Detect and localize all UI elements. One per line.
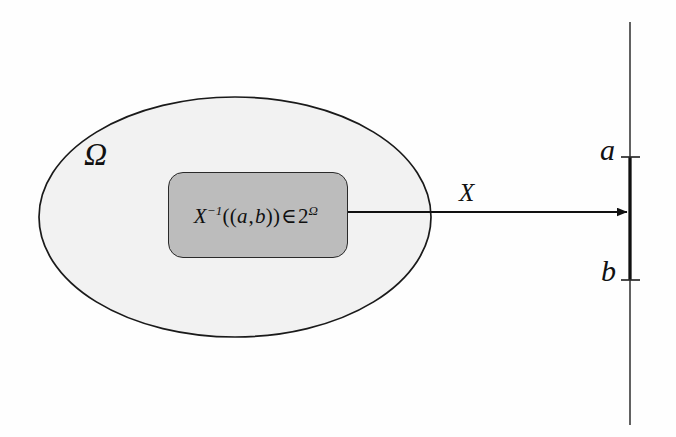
formula-open-parens: ((	[223, 204, 237, 228]
preimage-box: X−1((a,b))∈2Ω	[168, 172, 348, 258]
tick-label-b: b	[601, 256, 616, 286]
formula-variable: X	[194, 204, 207, 228]
formula-powerset-exponent: Ω	[309, 203, 319, 218]
formula-membership-symbol: ∈	[280, 204, 298, 228]
omega-label: Ω	[84, 138, 107, 170]
mapping-arrow-label: X	[459, 180, 474, 205]
formula-lower-bound: a	[237, 204, 248, 228]
formula-powerset-base: 2	[298, 204, 309, 228]
formula-upper-bound: b	[255, 204, 266, 228]
formula-inverse-exponent: −1	[207, 203, 223, 218]
tick-label-a: a	[600, 135, 615, 165]
formula-close-parens: ))	[266, 204, 280, 228]
preimage-formula: X−1((a,b))∈2Ω	[194, 204, 318, 229]
figure-canvas: Ω X a b X−1((a,b))∈2Ω	[0, 0, 676, 437]
formula-comma: ,	[248, 204, 255, 228]
